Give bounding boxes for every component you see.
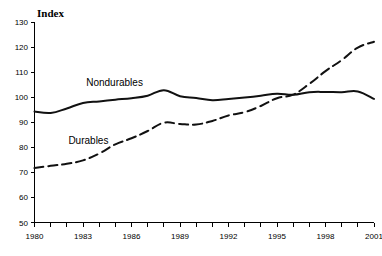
index-line-chart: Index 1301201101009080706050 19801983198… [0, 0, 382, 256]
x-tick-label: 1989 [171, 232, 189, 241]
y-tick-label: 100 [15, 93, 29, 102]
series-annotations: NondurablesDurables [68, 77, 143, 146]
x-tick-label: 1986 [123, 232, 141, 241]
x-tick-label: 1983 [74, 232, 92, 241]
y-tick-label: 70 [19, 168, 28, 177]
series-label-durables: Durables [68, 135, 108, 146]
y-tick-label: 80 [19, 143, 28, 152]
y-axis-ticks: 1301201101009080706050 [15, 18, 35, 228]
y-tick-label: 60 [19, 193, 28, 202]
chart-container: Index 1301201101009080706050 19801983198… [0, 0, 382, 256]
x-tick-label: 1998 [317, 232, 335, 241]
x-tick-label: 2001 [365, 232, 382, 241]
y-axis-title: Index [37, 7, 64, 19]
series-line-durables [35, 42, 375, 168]
y-tick-label: 130 [15, 18, 29, 27]
y-tick-label: 110 [15, 68, 28, 77]
series-line-nondurables [35, 90, 375, 113]
x-tick-label: 1992 [220, 232, 238, 241]
series-label-nondurables: Nondurables [86, 77, 143, 88]
x-axis-ticks: 19801983198619891992199519982001 [26, 223, 382, 242]
series-group [35, 42, 375, 168]
y-tick-label: 90 [19, 118, 28, 127]
y-tick-label: 120 [15, 43, 29, 52]
x-tick-label: 1980 [26, 232, 44, 241]
x-tick-label: 1995 [268, 232, 286, 241]
y-tick-label: 50 [19, 219, 28, 228]
axis-lines [35, 22, 375, 223]
